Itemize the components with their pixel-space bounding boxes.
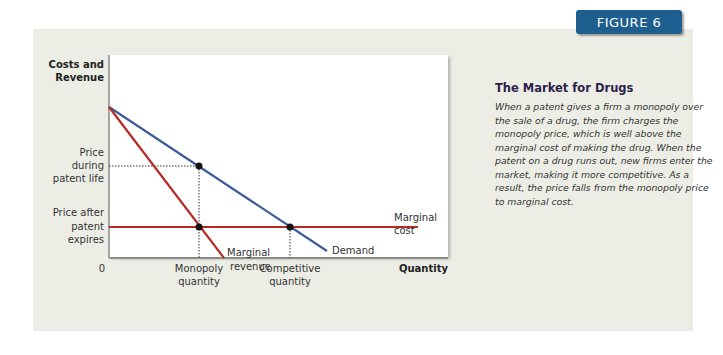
x-axis-title: Quantity — [399, 263, 448, 274]
x-tick-monopoly-line2: quantity — [178, 276, 220, 287]
caption-title: The Market for Drugs — [495, 81, 715, 95]
figure-caption: The Market for Drugs When a patent gives… — [495, 81, 715, 208]
y-axis-title-line2: Revenue — [55, 72, 104, 83]
monopoly-point — [196, 163, 203, 170]
mc-label-line1: Marginal — [394, 212, 437, 223]
mr-label-line2: revenue — [230, 261, 271, 272]
mr-label-line1: Marginal — [227, 247, 270, 258]
mc-label-line2: cost — [394, 225, 415, 236]
caption-body: When a patent gives a firm a monopoly ov… — [495, 100, 715, 208]
x-tick-monopoly-line1: Monopoly — [175, 263, 223, 274]
y-tick-price-patent-line1: Price — [80, 147, 104, 158]
y-axis-title-line1: Costs and — [49, 59, 104, 70]
x-tick-competitive-line2: quantity — [269, 276, 311, 287]
y-tick-price-after-line2: patent — [71, 221, 104, 232]
competitive-point — [287, 224, 294, 231]
mr-mc-intersection-point — [196, 224, 203, 231]
y-tick-price-after-line3: expires — [68, 234, 104, 245]
origin-label: 0 — [99, 263, 105, 274]
y-tick-price-patent-line3: patent life — [53, 173, 104, 184]
y-tick-price-patent-line2: during — [72, 160, 104, 171]
demand-label: Demand — [332, 245, 374, 256]
y-tick-price-after-line1: Price after — [53, 207, 105, 218]
